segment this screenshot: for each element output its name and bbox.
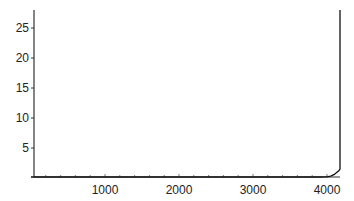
x-tick-label: 3000 [240,183,267,197]
line-chart: 5101520251000200030004000 [0,0,354,201]
x-tick-label: 1000 [92,183,119,197]
x-tick-label: 4000 [314,183,341,197]
data-line [31,10,340,177]
y-tick-label: 15 [16,81,30,95]
axes [34,10,340,177]
tick-labels: 5101520251000200030004000 [16,21,341,197]
plot-area [31,10,340,177]
y-tick-label: 5 [22,141,29,155]
ticks [31,28,327,177]
y-tick-label: 25 [16,21,30,35]
y-tick-label: 20 [16,51,30,65]
x-tick-label: 2000 [166,183,193,197]
y-tick-label: 10 [16,111,30,125]
